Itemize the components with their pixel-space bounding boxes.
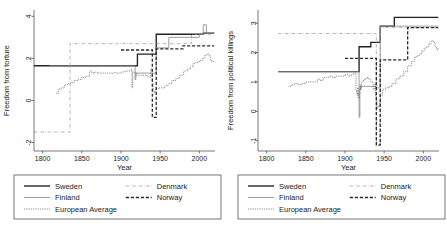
chart-panel-torture: -202418001850190019502000YearFreedom fro… xyxy=(0,0,223,231)
x-axis-label: Year xyxy=(341,163,357,172)
y-tick-label: -1 xyxy=(250,138,257,144)
axes xyxy=(34,10,215,151)
legend-label-sweden: Sweden xyxy=(279,182,306,191)
series-line-finland xyxy=(278,26,438,117)
x-tick-label: 2000 xyxy=(416,155,432,162)
chart-panel-political-killings: -1012318001850190019502000YearFreedom fr… xyxy=(224,0,447,231)
y-tick-label: 0 xyxy=(250,109,257,113)
legend-label-norway: Norway xyxy=(157,193,183,202)
series-line-finland xyxy=(50,25,215,80)
x-tick-label: 1850 xyxy=(298,155,314,162)
series-line-denmark xyxy=(278,28,438,144)
x-tick-label: 1800 xyxy=(259,155,275,162)
x-axis-ticks: 18001850190019502000 xyxy=(259,151,431,162)
x-tick-label: 1900 xyxy=(337,155,353,162)
y-tick-label: 2 xyxy=(250,51,257,55)
x-tick-label: 1850 xyxy=(74,155,90,162)
x-axis-label: Year xyxy=(117,163,133,172)
y-tick-label: 1 xyxy=(250,80,257,84)
x-tick-label: 1900 xyxy=(113,155,129,162)
x-tick-label: 1950 xyxy=(376,155,392,162)
y-axis-label: Freedom from torture xyxy=(2,45,11,116)
y-tick-label: 0 xyxy=(26,98,33,102)
legend-label-norway: Norway xyxy=(381,193,407,202)
legend-label-european-average: European Average xyxy=(279,205,341,214)
legend-label-denmark: Denmark xyxy=(157,182,188,191)
series-group xyxy=(34,25,214,132)
legend: SwedenFinlandEuropean AverageDenmarkNorw… xyxy=(238,175,445,219)
y-tick-label: -2 xyxy=(26,139,33,145)
y-axis-ticks: -2024 xyxy=(26,14,35,145)
x-axis-ticks: 18001850190019502000 xyxy=(35,151,207,162)
series-line-sweden xyxy=(278,17,438,71)
figure-panel-pair: -202418001850190019502000YearFreedom fro… xyxy=(0,0,447,231)
x-tick-label: 1950 xyxy=(152,155,168,162)
legend-label-denmark: Denmark xyxy=(381,182,412,191)
legend-label-sweden: Sweden xyxy=(55,182,82,191)
legend: SwedenFinlandEuropean AverageDenmarkNorw… xyxy=(14,175,221,219)
legend-label-european-average: European Average xyxy=(55,205,117,214)
y-tick-label: 2 xyxy=(26,56,33,60)
legend-label-finland: Finland xyxy=(279,193,304,202)
y-axis-label: Freedom from political killings xyxy=(226,31,235,130)
axes xyxy=(258,10,439,151)
series-line-denmark xyxy=(34,34,214,132)
y-tick-label: 3 xyxy=(250,21,257,25)
y-axis-ticks: -10123 xyxy=(250,21,259,144)
x-tick-label: 1800 xyxy=(35,155,51,162)
series-line-norway xyxy=(121,46,214,118)
legend-label-finland: Finland xyxy=(55,193,80,202)
x-tick-label: 2000 xyxy=(192,155,208,162)
series-group xyxy=(278,17,438,145)
y-tick-label: 4 xyxy=(26,14,33,18)
series-line-european-average xyxy=(289,41,439,109)
